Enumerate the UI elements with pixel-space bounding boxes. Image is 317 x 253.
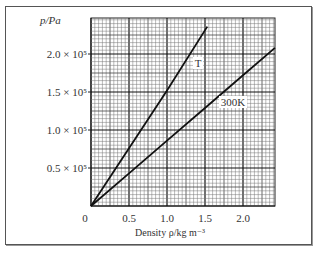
x-axis-label: Density ρ/kg m⁻³ xyxy=(135,227,205,238)
y-tick-label: 2.0 × 10⁵ xyxy=(47,48,87,60)
x-tick-label: 0 xyxy=(82,212,88,224)
x-tick-label: 2.0 xyxy=(236,212,250,224)
series-label-t: T xyxy=(195,57,202,69)
x-tick-label: 1.0 xyxy=(160,212,174,224)
y-axis-label: p/Pa xyxy=(39,14,61,26)
series-label-300k: 300K xyxy=(221,96,246,108)
x-tick-label: 1.5 xyxy=(198,212,212,224)
y-tick-label: 1.0 × 10⁵ xyxy=(47,124,87,136)
x-tick-label: 0.5 xyxy=(122,212,136,224)
y-tick-label: 1.5 × 10⁵ xyxy=(47,86,87,98)
graph-paper-grid xyxy=(91,18,275,206)
y-tick-label: 0.5 × 10⁵ xyxy=(47,162,87,174)
pressure-density-chart: T300K0.5 × 10⁵1.0 × 10⁵1.5 × 10⁵2.0 × 10… xyxy=(0,0,317,253)
